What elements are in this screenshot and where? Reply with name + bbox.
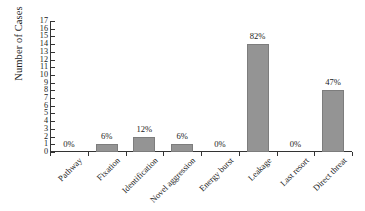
x-tick-mark [163,152,164,156]
x-tick-mark [239,152,240,156]
y-tick-label: 13 [28,48,48,56]
y-tick-label: 9 [28,79,48,87]
y-tick-label: 12 [28,55,48,63]
y-tick-label: 11 [28,63,48,71]
bar-value-label: 6% [101,132,112,141]
bar[interactable] [322,90,344,152]
bar[interactable] [171,144,193,152]
x-axis-category-label: Identification [121,156,160,195]
y-tick-label: 1 [28,140,48,148]
x-tick-mark [352,152,353,156]
y-tick-label: 10 [28,71,48,79]
y-tick-label: 4 [28,117,48,125]
y-axis-title: Number of Cases [13,0,24,99]
y-tick-label: 0 [28,148,48,156]
x-tick-mark [50,152,51,156]
x-axis-category-label: Leakage [246,156,273,183]
bar-value-label: 47% [325,78,341,87]
bar-slot: 12% [126,21,164,152]
bar-slot: 6% [163,21,201,152]
bar-slot: 0% [277,21,315,152]
bar-slot: 0% [50,21,88,152]
bar-value-label: 6% [176,132,187,141]
bar-value-label: 0% [290,140,301,149]
bar[interactable] [133,137,155,152]
bar-value-label: 0% [214,140,225,149]
x-tick-mark [314,152,315,156]
x-axis-category-label: Energy burst [198,156,235,193]
y-tick-label: 2 [28,132,48,140]
x-axis-category-label: Last resort [279,156,311,188]
bar-value-label: 0% [63,140,74,149]
x-axis-category-label: Fixation [95,156,122,183]
y-tick-label: 3 [28,125,48,133]
y-tick-mark [51,152,55,153]
x-tick-mark [277,152,278,156]
y-tick-label: 8 [28,86,48,94]
plot-area: 01234567891011121314151617 0%6%12%6%0%82… [50,21,352,152]
bar-slot: 47% [314,21,352,152]
bar-chart: Number of Cases 012345678910111213141516… [0,0,365,211]
x-axis-category-label: Direct threat [312,156,349,193]
y-tick-label: 5 [28,109,48,117]
bar[interactable] [247,44,269,152]
y-tick-label: 7 [28,94,48,102]
bar-slot: 6% [88,21,126,152]
bar-slot: 82% [239,21,277,152]
x-axis-category-label: Pathway [57,156,84,183]
y-tick-label: 15 [28,32,48,40]
x-tick-mark [126,152,127,156]
y-tick-label: 14 [28,40,48,48]
y-tick-label: 16 [28,25,48,33]
x-tick-mark [201,152,202,156]
y-tick-label: 17 [28,17,48,25]
x-tick-mark [88,152,89,156]
bar-value-label: 82% [250,32,266,41]
bar-value-label: 12% [136,125,152,134]
y-tick-label: 6 [28,102,48,110]
bar-slot: 0% [201,21,239,152]
bar[interactable] [96,144,118,152]
